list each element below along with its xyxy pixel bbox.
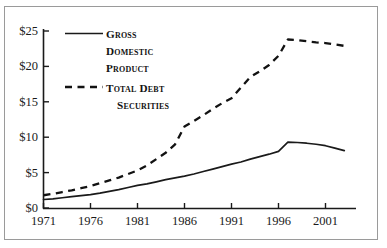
legend-label-gdp-line2: Domestic — [106, 44, 153, 59]
y-tick-label-10: $10 — [8, 131, 38, 144]
series-line-total-debt-securities — [44, 40, 345, 196]
legend-label-gdp-line1: Gross — [106, 27, 137, 42]
x-axis-ticks — [44, 203, 326, 209]
y-tick-label-25: $25 — [8, 25, 38, 38]
series-line-gross-domestic-product — [44, 142, 345, 199]
legend-label-gdp-line3: Product — [106, 61, 149, 76]
x-tick-label-1971: 1971 — [18, 215, 70, 228]
legend-label-debt-line1: Total Debt — [106, 81, 164, 96]
y-tick-label-0: $0 — [8, 202, 38, 215]
x-tick-label-1976: 1976 — [65, 215, 117, 228]
y-tick-label-5: $5 — [8, 167, 38, 180]
x-tick-label-1981: 1981 — [112, 215, 164, 228]
x-tick-label-2001: 2001 — [300, 215, 352, 228]
legend-label-debt-line2: Securities — [117, 98, 169, 113]
y-tick-label-15: $15 — [8, 96, 38, 109]
legend-line-samples — [65, 34, 103, 88]
data-series — [44, 40, 345, 200]
y-tick-label-20: $20 — [8, 60, 38, 73]
chart-figure: $25 $20 $15 $10 $5 $0 1971 1976 1981 198… — [0, 0, 387, 248]
x-tick-label-1991: 1991 — [206, 215, 258, 228]
x-tick-label-1986: 1986 — [159, 215, 211, 228]
x-tick-label-1996: 1996 — [253, 215, 305, 228]
y-axis-ticks — [44, 31, 50, 208]
line-chart-plot — [0, 0, 387, 248]
